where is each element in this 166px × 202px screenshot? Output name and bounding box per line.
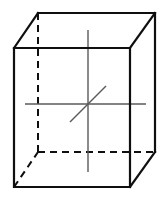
figure-canvas bbox=[0, 0, 166, 202]
cuboid-diagram bbox=[0, 0, 166, 202]
